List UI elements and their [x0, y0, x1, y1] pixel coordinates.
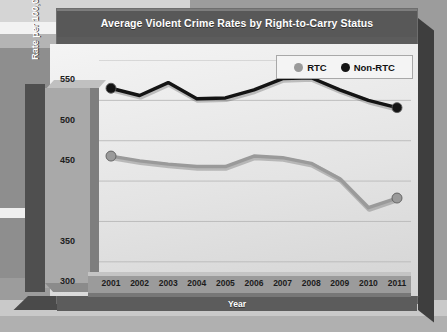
x-axis-tick-label: 2010	[353, 278, 383, 288]
y-axis-block-side	[90, 88, 99, 288]
x-axis-tick-label: 2006	[239, 278, 269, 288]
series-line[interactable]	[111, 156, 397, 208]
legend-label: RTC	[307, 62, 327, 73]
y-axis-tick-label: 300	[45, 276, 90, 286]
x-axis-tick-label: 2011	[382, 278, 412, 288]
legend-label: Non-RTC	[354, 62, 395, 73]
x-axis-tick-label: 2004	[182, 278, 212, 288]
x-axis-tick-label: 2009	[325, 278, 355, 288]
legend-item[interactable]: RTC	[294, 62, 327, 73]
legend-item[interactable]: Non-RTC	[341, 62, 395, 73]
y-axis-tick-label: 500	[45, 115, 90, 125]
x-axis-tick-label: 2008	[296, 278, 326, 288]
x-axis-title: Year	[57, 297, 417, 311]
plot-area	[99, 60, 411, 282]
x-axis-tick-label: 2001	[96, 278, 126, 288]
background-bottom-dark	[0, 316, 447, 332]
data-point-marker[interactable]	[106, 151, 116, 161]
title-bar: Average Violent Crime Rates by Right-to-…	[57, 9, 417, 37]
x-axis-tick-label: 2007	[268, 278, 298, 288]
chart-screenshot: Average Violent Crime Rates by Right-to-…	[0, 0, 447, 332]
title-bar-highlight	[57, 9, 417, 11]
y-axis-title-band	[25, 84, 45, 292]
data-point-marker[interactable]	[392, 103, 402, 113]
y-axis-tick-label: 450	[45, 155, 90, 165]
page-title: Average Violent Crime Rates by Right-to-…	[101, 17, 373, 29]
y-axis-tick-label: 550	[45, 74, 90, 84]
x-axis-tick-label: 2002	[125, 278, 155, 288]
x-axis-tick-label: 2003	[153, 278, 183, 288]
y-axis-tick-label: 350	[45, 236, 90, 246]
series-line-shadow	[112, 158, 398, 210]
y-axis-title: Rate per 100,000 population	[25, 0, 45, 104]
legend-marker-icon	[294, 63, 303, 72]
card-bevel-right	[418, 18, 434, 323]
data-point-marker[interactable]	[392, 193, 402, 203]
legend: RTCNon-RTC	[276, 55, 413, 79]
legend-marker-icon	[341, 63, 350, 72]
series-canvas	[99, 60, 411, 282]
x-axis-tick-label: 2005	[210, 278, 240, 288]
data-point-marker[interactable]	[106, 83, 116, 93]
